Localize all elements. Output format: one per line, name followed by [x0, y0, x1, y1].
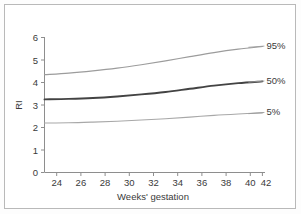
- x-tick-label-24: 24: [51, 177, 62, 188]
- x-tick-label-26: 26: [76, 177, 87, 188]
- y-tick-label-3: 3: [33, 100, 38, 111]
- x-tick-label-42: 42: [261, 177, 272, 188]
- y-tick-marks: [41, 38, 45, 173]
- x-axis-title: Weeks' gestation: [117, 191, 189, 202]
- line-chart: 0 1 2 3 4 5 6 24 26 28 30 32: [0, 0, 301, 214]
- y-tick-label-6: 6: [33, 32, 38, 43]
- y-tick-label-0: 0: [33, 167, 38, 178]
- x-tick-labels: 24 26 28 30 32 34 36 38 40 42: [51, 177, 271, 188]
- curve-95-percentile: [45, 47, 263, 75]
- y-tick-label-2: 2: [33, 122, 38, 133]
- x-tick-label-38: 38: [221, 177, 232, 188]
- curve-5-percentile: [45, 113, 263, 123]
- leader-line-5: [248, 112, 264, 113]
- x-tick-label-28: 28: [100, 177, 111, 188]
- series-label-50: 50%: [266, 75, 286, 86]
- x-tick-label-36: 36: [197, 177, 208, 188]
- curve-50-percentile: [45, 81, 263, 99]
- y-tick-label-1: 1: [33, 145, 38, 156]
- figure-container: 0 1 2 3 4 5 6 24 26 28 30 32: [0, 0, 301, 214]
- series-label-95: 95%: [266, 40, 286, 51]
- x-tick-label-30: 30: [124, 177, 135, 188]
- x-tick-marks: [57, 173, 263, 177]
- x-tick-label-34: 34: [172, 177, 183, 188]
- x-tick-label-32: 32: [148, 177, 159, 188]
- series-label-5: 5%: [266, 106, 280, 117]
- y-tick-label-5: 5: [33, 55, 38, 66]
- y-axis-title: RI: [13, 100, 24, 110]
- x-tick-label-40: 40: [245, 177, 256, 188]
- y-tick-labels: 0 1 2 3 4 5 6: [33, 32, 38, 178]
- y-tick-label-4: 4: [33, 77, 38, 88]
